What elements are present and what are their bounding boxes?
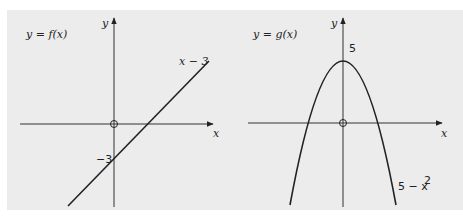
y-axis-label: y [101, 17, 109, 30]
x-axis-label: x [213, 127, 220, 140]
curve-label: x − 3 [179, 55, 208, 68]
curve-label-superscript: 2 [424, 174, 431, 187]
line-curve [68, 61, 209, 206]
graph-f-title: y = f(x) [25, 28, 67, 41]
graph-g: y = g(x) y x 5 5 − x 2 [248, 17, 448, 207]
max-label: 5 [349, 42, 356, 55]
graphs: y = f(x) y x x − 3 −3 y = g(x) y x 5 5 −… [0, 0, 463, 218]
y-axis-label: y [330, 17, 338, 30]
graph-f: y = f(x) y x x − 3 −3 [20, 17, 220, 207]
x-axis-label: x [441, 127, 448, 140]
graph-g-title: y = g(x) [252, 28, 297, 41]
intercept-label: −3 [96, 153, 112, 166]
